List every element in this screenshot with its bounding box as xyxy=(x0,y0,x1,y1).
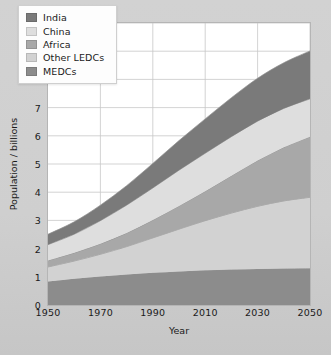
x-axis-tick-2030: 2030 xyxy=(245,307,270,318)
legend: IndiaChinaAfricaOther LEDCsMEDCs xyxy=(18,5,117,84)
y-axis-tick-2: 2 xyxy=(35,243,41,254)
legend-item-label: Other LEDCs xyxy=(43,52,104,63)
x-axis-tick-1970: 1970 xyxy=(88,307,113,318)
legend-swatch-icon xyxy=(26,53,37,62)
y-axis-tick-6: 6 xyxy=(35,130,41,141)
legend-swatch-icon xyxy=(26,27,37,36)
legend-item-label: Africa xyxy=(43,39,71,50)
y-axis-tick-1: 1 xyxy=(35,271,41,282)
legend-item-other-ledcs: Other LEDCs xyxy=(26,51,104,64)
legend-swatch-icon xyxy=(26,67,37,76)
legend-item-africa: Africa xyxy=(26,38,104,51)
legend-item-label: MEDCs xyxy=(43,66,77,77)
y-axis-tick-5: 5 xyxy=(35,159,41,170)
y-axis-tick-7: 7 xyxy=(35,102,41,113)
figure-background: 012345678910 Population / billions India… xyxy=(0,0,331,355)
legend-item-medcs: MEDCs xyxy=(26,65,104,78)
x-axis-tick-2010: 2010 xyxy=(193,307,218,318)
y-axis-title: Population / billions xyxy=(8,89,19,239)
legend-item-china: China xyxy=(26,24,104,37)
legend-item-label: India xyxy=(43,12,67,23)
x-axis-tick-2050: 2050 xyxy=(298,307,323,318)
y-axis-tick-4: 4 xyxy=(35,187,41,198)
x-axis-title: Year xyxy=(47,325,311,336)
x-axis-tick-1950: 1950 xyxy=(36,307,61,318)
legend-swatch-icon xyxy=(26,40,37,49)
legend-item-label: China xyxy=(43,26,71,37)
legend-swatch-icon xyxy=(26,13,37,22)
x-axis-tick-1990: 1990 xyxy=(140,307,165,318)
y-axis-tick-3: 3 xyxy=(35,215,41,226)
x-axis-tick-labels: 195019701990201020302050 xyxy=(47,307,311,323)
legend-item-india: India xyxy=(26,11,104,24)
